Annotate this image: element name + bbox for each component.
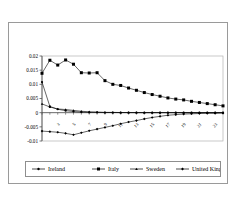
data-point (222, 112, 225, 115)
data-point (103, 79, 106, 82)
data-point (143, 91, 146, 94)
data-point (127, 87, 130, 90)
x-tick-label: 21 (196, 121, 203, 128)
series-line (42, 60, 223, 106)
y-tick-label: -0.005 (25, 124, 39, 130)
series-line (42, 82, 223, 113)
y-tick-label: -0.01 (27, 138, 38, 144)
data-point (97, 168, 100, 171)
data-point (181, 168, 184, 171)
legend-label: Italy (108, 166, 119, 172)
series-sweden (41, 103, 224, 114)
data-point (41, 103, 43, 105)
data-point (56, 64, 59, 67)
data-point (72, 63, 75, 66)
x-tick-label: 9 (103, 121, 109, 127)
data-point (214, 103, 217, 106)
series-ireland (41, 81, 224, 114)
data-point (72, 133, 75, 136)
y-tick-label: 0 (35, 110, 38, 116)
data-point (41, 81, 43, 83)
y-tick-label: 0.015 (26, 67, 38, 73)
x-tick-label: 15 (149, 121, 156, 128)
data-point (80, 131, 83, 134)
data-point (37, 168, 39, 170)
legend-item-sweden[interactable]: Sweden (130, 166, 165, 172)
x-tick-label: 13 (133, 121, 140, 128)
data-point (119, 84, 122, 87)
data-point (190, 100, 193, 103)
legend-label: Sweden (146, 166, 165, 172)
legend-label: United Kingdom (192, 166, 220, 172)
data-point (159, 115, 162, 118)
y-tick-label: 0.01 (29, 81, 38, 87)
x-tick-label: 17 (164, 121, 171, 128)
data-point (112, 124, 115, 127)
legend-item-italy[interactable]: Italy (92, 166, 119, 172)
data-point (174, 98, 177, 101)
legend-item-united-kingdom[interactable]: United Kingdom (176, 166, 220, 172)
data-point (64, 132, 67, 135)
data-point (96, 128, 99, 131)
data-point (174, 113, 177, 116)
data-point (56, 131, 59, 134)
data-point (64, 58, 67, 61)
data-point (80, 71, 83, 74)
x-tick-label: 11 (117, 121, 124, 128)
data-point (206, 102, 209, 105)
x-tick-label: 23 (212, 121, 219, 128)
data-point (182, 98, 185, 101)
data-point (151, 116, 154, 119)
data-point (222, 104, 225, 107)
data-point (111, 83, 114, 86)
chart-figure: 0.020.0150.010.0050-0.005-0.013579111315… (8, 22, 228, 184)
data-point (49, 130, 52, 133)
data-point (166, 96, 169, 99)
x-tick-label: 5 (72, 121, 78, 127)
y-tick-label: 0.02 (29, 53, 38, 59)
series-italy (41, 58, 225, 107)
data-point (88, 72, 91, 75)
chart-legend: IrelandItalySwedenUnited Kingdom (25, 161, 221, 177)
plot-frame (42, 56, 223, 141)
x-tick-label: 7 (87, 121, 93, 127)
data-point (198, 101, 201, 104)
data-point (127, 121, 130, 124)
legend-item-ireland[interactable]: Ireland (32, 166, 65, 172)
data-point (135, 89, 138, 92)
data-point (96, 71, 99, 74)
data-point (88, 129, 91, 132)
x-tick-label: 19 (180, 121, 187, 128)
data-point (48, 59, 51, 62)
x-tick-label: 3 (56, 121, 62, 127)
y-tick-label: 0.005 (26, 95, 38, 101)
data-point (143, 118, 146, 121)
data-point (41, 72, 44, 75)
data-point (151, 93, 154, 96)
legend-canvas: IrelandItalySwedenUnited Kingdom (26, 162, 220, 176)
data-point (167, 114, 170, 117)
data-point (159, 95, 162, 98)
data-point (41, 130, 44, 133)
legend-label: Ireland (48, 166, 65, 172)
